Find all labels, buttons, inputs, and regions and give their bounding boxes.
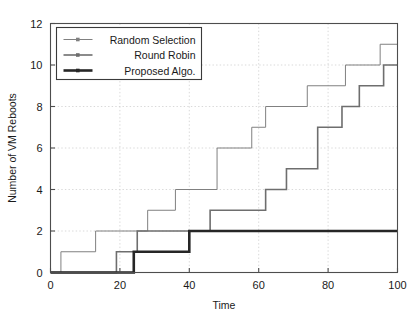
x-tick-label: 20 xyxy=(114,279,126,291)
y-tick-label: 12 xyxy=(30,18,42,30)
x-tick-label: 0 xyxy=(47,279,53,291)
vm-reboots-step-chart: 020406080100 024681012 Time Number of VM… xyxy=(0,0,419,317)
chart-legend: Random SelectionRound RobinProposed Algo… xyxy=(57,28,202,80)
y-tick-label: 0 xyxy=(36,267,42,279)
x-axis-title: Time xyxy=(213,299,236,311)
x-tick-label: 80 xyxy=(322,279,334,291)
y-axis-title: Number of VM Reboots xyxy=(6,93,18,203)
y-tick-label: 6 xyxy=(36,142,42,154)
x-tick-label: 60 xyxy=(253,279,265,291)
legend-label: Random Selection xyxy=(110,34,196,46)
x-tick-label: 40 xyxy=(183,279,195,291)
y-tick-label: 2 xyxy=(36,225,42,237)
legend-marker-square xyxy=(76,69,80,73)
legend-marker-square xyxy=(76,38,80,42)
x-tick-label: 100 xyxy=(388,279,406,291)
chart-figure: 020406080100 024681012 Time Number of VM… xyxy=(0,0,419,317)
legend-label: Proposed Algo. xyxy=(124,65,195,77)
y-tick-label: 4 xyxy=(36,184,42,196)
legend-label: Round Robin xyxy=(134,49,195,61)
y-tick-label: 10 xyxy=(30,59,42,71)
y-tick-label: 8 xyxy=(36,101,42,113)
legend-marker-square xyxy=(76,53,80,57)
